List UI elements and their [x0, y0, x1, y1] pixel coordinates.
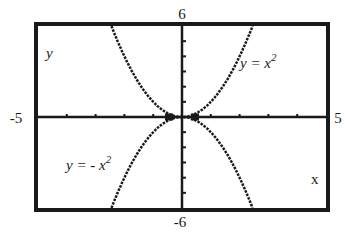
y-axis-label: y	[44, 45, 53, 61]
legend-parabola-up: y = x2	[238, 51, 277, 71]
vertex-marker-left	[165, 114, 173, 121]
x-min-label: -5	[10, 110, 23, 126]
graph-canvas: 6 -6 -5 5 y x y = x2 y = - x2	[0, 0, 345, 235]
x-max-label: 5	[334, 110, 342, 126]
y-max-label: 6	[178, 6, 186, 22]
x-axis-label: x	[311, 171, 319, 187]
legend-parabola-down: y = - x2	[64, 153, 112, 173]
y-min-label: -6	[174, 214, 187, 230]
vertex-marker-right	[191, 114, 199, 121]
